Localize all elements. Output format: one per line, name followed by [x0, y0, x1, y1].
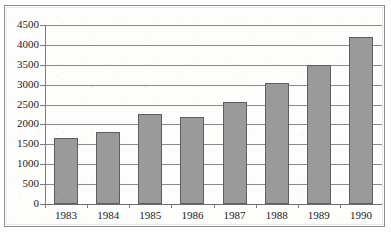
y-axis-label-500: 500 [5, 178, 39, 189]
x-axis-tick-1984 [129, 204, 130, 208]
x-axis-label-1985: 1985 [129, 209, 171, 222]
x-axis-label-1986: 1986 [171, 209, 213, 222]
bar-1985 [138, 114, 162, 204]
bar-1988 [265, 83, 289, 204]
x-axis-label-1990: 1990 [340, 209, 382, 222]
y-axis-label-3000: 3000 [5, 79, 39, 90]
y-axis-label-1000: 1000 [5, 158, 39, 169]
x-axis-tick-labels: 19831984198519861987198819891990 [45, 209, 382, 227]
bar-1990 [349, 37, 373, 204]
x-axis-label-1989: 1989 [298, 209, 340, 222]
x-axis-tick-1983 [87, 204, 88, 208]
x-axis-label-1988: 1988 [256, 209, 298, 222]
x-axis-label-1983: 1983 [45, 209, 87, 222]
y-axis-label-2500: 2500 [5, 99, 39, 110]
y-axis-tick-1000 [40, 164, 45, 165]
chart-page: 050010001500200025003000350040004500 198… [0, 0, 391, 233]
bar-1987 [223, 102, 247, 204]
y-axis-tick-labels: 050010001500200025003000350040004500 [5, 6, 39, 233]
x-axis-tick-origin [45, 204, 46, 208]
y-axis-tick-3000 [40, 85, 45, 86]
y-axis-label-2000: 2000 [5, 118, 39, 129]
y-axis-tick-500 [40, 184, 45, 185]
x-axis-tick-1990 [382, 204, 383, 208]
y-axis-label-1500: 1500 [5, 138, 39, 149]
x-axis-label-1987: 1987 [214, 209, 256, 222]
chart-frame: 050010001500200025003000350040004500 198… [4, 5, 385, 227]
bar-1983 [54, 138, 78, 204]
x-axis-tick-1989 [340, 204, 341, 208]
gridline-4500 [45, 25, 382, 26]
gridline-3000 [45, 85, 382, 86]
y-axis-tick-3500 [40, 65, 45, 66]
plot-area [45, 25, 382, 204]
y-axis-tick-2500 [40, 105, 45, 106]
y-axis-label-3500: 3500 [5, 59, 39, 70]
y-axis-tick-4000 [40, 45, 45, 46]
gridline-3500 [45, 65, 382, 66]
x-axis-tick-1988 [298, 204, 299, 208]
x-axis-tick-1987 [256, 204, 257, 208]
gridline-2500 [45, 105, 382, 106]
bar-1984 [96, 132, 120, 204]
y-axis-label-4000: 4000 [5, 39, 39, 50]
y-axis-tick-1500 [40, 144, 45, 145]
x-axis-tick-1985 [171, 204, 172, 208]
y-axis-label-0: 0 [5, 198, 39, 209]
bar-1989 [307, 65, 331, 204]
y-axis-label-4500: 4500 [5, 19, 39, 30]
gridline-4000 [45, 45, 382, 46]
x-axis-tick-1986 [214, 204, 215, 208]
gridline-2000 [45, 124, 382, 125]
y-axis-tick-2000 [40, 124, 45, 125]
bar-1986 [180, 117, 204, 205]
x-axis-label-1984: 1984 [87, 209, 129, 222]
y-axis-tick-4500 [40, 25, 45, 26]
